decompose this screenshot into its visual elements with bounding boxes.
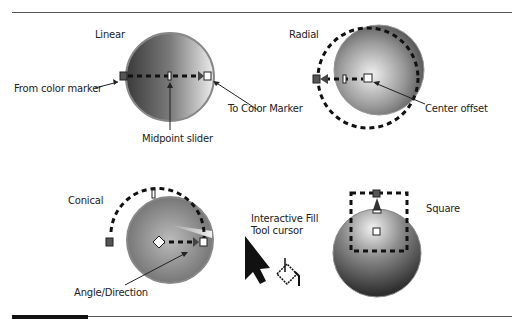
square-fill-sphere [333,190,421,297]
from-color-marker-label: From color marker [14,83,102,95]
interactive-fill-cursor-icon [245,236,299,286]
to-color-marker[interactable] [204,72,211,80]
midpoint-slider[interactable] [168,72,171,80]
square-title: Square [426,203,460,215]
to-color-marker-label: To Color Marker [228,103,303,115]
radial-midpoint-slider[interactable] [343,75,346,83]
linear-title: Linear [95,29,125,41]
midpoint-slider-label: Midpoint slider [142,133,213,145]
cursor-label-line1: Interactive Fill [251,213,318,225]
radial-fill-sphere [313,25,425,128]
conical-to-marker[interactable] [200,238,207,246]
center-offset-handle[interactable] [364,74,372,82]
square-midpoint-slider[interactable] [373,210,381,213]
diagram-canvas [0,0,523,319]
conical-title: Conical [68,195,103,207]
angle-direction-label: Angle/Direction [74,287,148,299]
conical-angle-slider[interactable] [152,190,155,198]
square-center-handle[interactable] [373,228,380,235]
center-offset-label: Center offset [425,103,488,115]
conical-fill-sphere [106,188,213,285]
conical-from-marker[interactable] [106,238,113,246]
radial-color-marker[interactable] [313,75,320,83]
from-color-marker[interactable] [120,72,127,80]
linear-fill-sphere [95,33,258,130]
radial-title: Radial [289,29,319,41]
cursor-label-line2: Tool cursor [251,225,303,237]
square-color-marker[interactable] [373,190,380,197]
